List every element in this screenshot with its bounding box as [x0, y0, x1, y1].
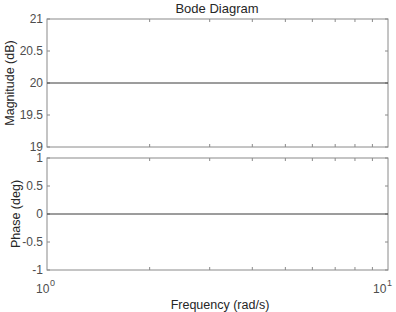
phase-ylabel: Phase (deg): [9, 180, 23, 248]
mag-tick-20: 20: [30, 76, 44, 90]
magnitude-axes: 21 20.5 20 19.5 19 Magnitude (dB): [3, 12, 388, 154]
svg-text:10: 10: [373, 282, 387, 296]
mag-tick-20.5: 20.5: [20, 44, 44, 58]
phase-tick-neg0.5: -0.5: [22, 235, 43, 249]
x-tick-10e1: 10 1: [373, 278, 392, 296]
phase-tick-0.5: 0.5: [26, 179, 43, 193]
svg-text:10: 10: [36, 282, 50, 296]
mag-tick-21: 21: [30, 12, 44, 26]
phase-tick-neg1: -1: [32, 263, 43, 277]
phase-tick-0: 0: [36, 207, 43, 221]
magnitude-ylabel: Magnitude (dB): [3, 40, 17, 125]
bode-plot: Bode Diagram 21 20.5 20 19.5 19 Magnitud…: [0, 0, 396, 312]
svg-text:0: 0: [50, 278, 55, 288]
x-tick-10e0: 10 0: [36, 278, 55, 296]
frequency-xlabel: Frequency (rad/s): [171, 298, 270, 312]
phase-axes: 1 0.5 0 -0.5 -1 Phase (deg): [9, 151, 388, 277]
mag-tick-19.5: 19.5: [20, 108, 44, 122]
phase-tick-1: 1: [36, 151, 43, 165]
chart-title: Bode Diagram: [175, 1, 258, 16]
svg-text:1: 1: [387, 278, 392, 288]
